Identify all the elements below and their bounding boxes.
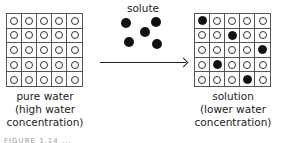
grid-cell <box>52 14 67 29</box>
water-molecule <box>198 61 206 69</box>
water-molecule <box>259 76 267 84</box>
grid-cell <box>67 43 82 58</box>
water-molecule <box>243 46 251 54</box>
pure-water-grid <box>6 13 83 87</box>
water-molecule <box>198 76 206 84</box>
grid-cell <box>67 14 82 29</box>
grid-cell <box>22 43 37 58</box>
water-molecule <box>25 46 33 54</box>
solute-particle <box>243 75 252 84</box>
water-molecule <box>25 17 33 25</box>
water-molecule <box>71 17 79 25</box>
grid-cell <box>210 14 225 29</box>
grid-cell <box>240 14 255 29</box>
solute-particle <box>121 18 131 28</box>
grid-cell <box>255 43 270 58</box>
grid-cell <box>67 58 82 73</box>
solute-particle <box>258 45 267 54</box>
water-molecule <box>71 46 79 54</box>
grid-cell <box>225 43 240 58</box>
solution-label-line2: (lower water <box>186 103 280 116</box>
water-molecule <box>25 61 33 69</box>
grid-cell <box>225 29 240 44</box>
water-molecule <box>40 31 48 39</box>
water-molecule <box>10 76 18 84</box>
grid-cell <box>195 14 210 29</box>
water-molecule <box>40 46 48 54</box>
grid-cell <box>240 72 255 87</box>
grid-cell <box>255 14 270 29</box>
grid-cell <box>37 14 52 29</box>
arrow-icon <box>100 62 186 63</box>
pure-water-label-line2: (high water <box>0 103 90 116</box>
grid-cell <box>37 43 52 58</box>
water-molecule <box>228 76 236 84</box>
grid-cell <box>52 72 67 87</box>
water-molecule <box>10 46 18 54</box>
water-molecule <box>259 17 267 25</box>
water-molecule <box>40 76 48 84</box>
grid-cell <box>7 29 22 44</box>
pure-water-label-line1: pure water <box>0 90 90 103</box>
water-molecule <box>10 31 18 39</box>
grid-cell <box>240 58 255 73</box>
grid-cell <box>52 29 67 44</box>
grid-cell <box>67 29 82 44</box>
grid-cell <box>255 29 270 44</box>
solution-label-line3: concentration) <box>186 116 280 129</box>
solute-particle <box>124 37 134 47</box>
grid-cell <box>22 29 37 44</box>
water-molecule <box>259 31 267 39</box>
water-molecule <box>228 61 236 69</box>
water-molecule <box>71 61 79 69</box>
grid-cell <box>255 72 270 87</box>
water-molecule <box>55 17 63 25</box>
solution-label-line1: solution <box>186 90 280 103</box>
water-molecule <box>243 31 251 39</box>
solution-grid <box>194 13 271 87</box>
grid-cell <box>22 72 37 87</box>
grid-cell <box>7 43 22 58</box>
water-molecule <box>10 17 18 25</box>
grid-cell <box>210 72 225 87</box>
water-molecule <box>71 76 79 84</box>
grid-cell <box>195 29 210 44</box>
solute-particle <box>140 27 150 37</box>
water-molecule <box>55 31 63 39</box>
water-molecule <box>198 46 206 54</box>
water-molecule <box>213 17 221 25</box>
water-molecule <box>55 76 63 84</box>
solute-particle <box>198 16 207 25</box>
water-molecule <box>213 76 221 84</box>
water-molecule <box>243 61 251 69</box>
grid-cell <box>240 43 255 58</box>
grid-cell <box>7 72 22 87</box>
water-molecule <box>40 17 48 25</box>
grid-cell <box>22 14 37 29</box>
solute-particle <box>152 39 162 49</box>
water-molecule <box>213 31 221 39</box>
grid-cell <box>52 58 67 73</box>
water-molecule <box>25 31 33 39</box>
grid-cell <box>195 58 210 73</box>
grid-cell <box>67 72 82 87</box>
solute-particle <box>151 17 161 27</box>
pure-water-label: pure water (high water concentration) <box>0 90 90 129</box>
figure-caption: FIGURE 1.14 ... <box>4 137 72 143</box>
grid-cell <box>210 29 225 44</box>
water-molecule <box>25 76 33 84</box>
water-molecule <box>228 17 236 25</box>
grid-cell <box>255 58 270 73</box>
water-molecule <box>213 46 221 54</box>
grid-cell <box>225 72 240 87</box>
water-molecule <box>10 61 18 69</box>
water-molecule <box>259 61 267 69</box>
water-molecule <box>228 46 236 54</box>
water-molecule <box>55 61 63 69</box>
grid-cell <box>7 14 22 29</box>
grid-cell <box>37 58 52 73</box>
solute-particle <box>213 60 222 69</box>
water-molecule <box>198 31 206 39</box>
grid-cell <box>225 14 240 29</box>
water-molecule <box>71 31 79 39</box>
